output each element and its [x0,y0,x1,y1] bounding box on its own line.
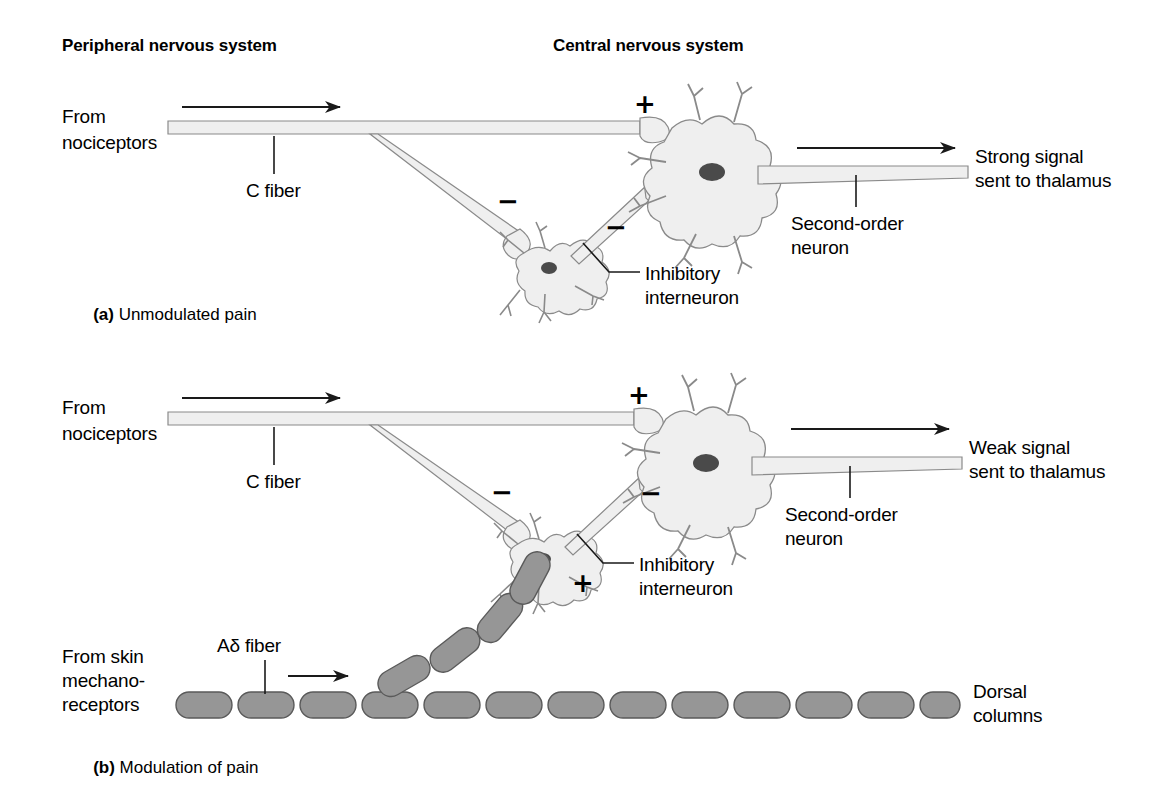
label-output-signal-b-line1: Weak signal [969,437,1070,458]
pain-modulation-diagram: Peripheral nervous system Central nervou… [0,0,1174,793]
label-a-delta-fiber: Aδ fiber [217,635,282,656]
label-output-signal-a-line1: Strong signal [975,146,1083,167]
label-from-skin-line1: From skin [62,646,144,667]
caption-panel-a-text: Unmodulated pain [119,305,257,324]
sign-minus-inhibitory-a-1: − [497,186,519,216]
nucleus-second-order-neuron-b [693,454,719,472]
label-from-nociceptors-b-line2: nociceptors [62,423,157,444]
label-from-nociceptors-a-line1: From [62,106,106,127]
myelin-segment [672,692,728,718]
myelin-segment [300,692,356,718]
label-from-skin-line3: receptors [62,694,139,715]
label-second-order-neuron-b-line2: neuron [785,528,843,549]
label-dorsal-columns-line1: Dorsal [973,681,1027,702]
myelin-segment [610,692,666,718]
label-output-signal-b-line2: sent to thalamus [969,461,1105,482]
sign-plus-excitatory-a: + [634,89,656,119]
label-dorsal-columns-line2: columns [973,705,1042,726]
label-second-order-neuron-b-line1: Second-order [785,504,899,525]
label-c-fiber-a: C fiber [246,180,301,201]
label-inhibitory-interneuron-b-line1: Inhibitory [639,554,715,575]
label-inhibitory-interneuron-a-line2: interneuron [645,287,739,308]
caption-panel-b-text: Modulation of pain [120,758,259,777]
myelin-segment [238,692,294,718]
label-inhibitory-interneuron-a-line1: Inhibitory [645,263,721,284]
sign-minus-inhibitory-a-2: − [605,212,627,242]
sign-minus-inhibitory-b-1: − [491,477,513,507]
label-inhibitory-interneuron-b-line2: interneuron [639,578,733,599]
nucleus-interneuron-a [541,262,557,274]
myelin-segment [176,692,232,718]
myelin-segment [486,692,542,718]
myelin-segment [796,692,852,718]
label-second-order-neuron-a-line1: Second-order [791,213,905,234]
label-second-order-neuron-a-line2: neuron [791,237,849,258]
label-output-signal-a-line2: sent to thalamus [975,170,1111,191]
myelin-segment [858,692,914,718]
sign-plus-excitatory-b-bottom: + [572,568,594,598]
sign-minus-inhibitory-b-2: − [640,478,662,508]
myelin-segment [424,692,480,718]
header-central-nervous-system: Central nervous system [553,36,744,55]
myelin-segment [920,692,960,718]
header-peripheral-nervous-system: Peripheral nervous system [62,36,277,55]
canvas-background [0,0,1174,793]
caption-panel-b-tag: (b) [93,758,115,777]
caption-panel-a: (a) Unmodulated pain [62,305,279,324]
label-c-fiber-b: C fiber [246,471,301,492]
caption-panel-a-tag: (a) [93,305,114,324]
label-from-nociceptors-b-line1: From [62,397,106,418]
sign-plus-excitatory-b-top: + [628,380,650,410]
myelin-segment [734,692,790,718]
label-from-nociceptors-a-line2: nociceptors [62,132,157,153]
caption-panel-b: (b) Modulation of pain [62,758,281,777]
label-from-skin-line2: mechano- [62,670,145,691]
nucleus-second-order-neuron-a [699,163,725,181]
myelin-segment [548,692,604,718]
